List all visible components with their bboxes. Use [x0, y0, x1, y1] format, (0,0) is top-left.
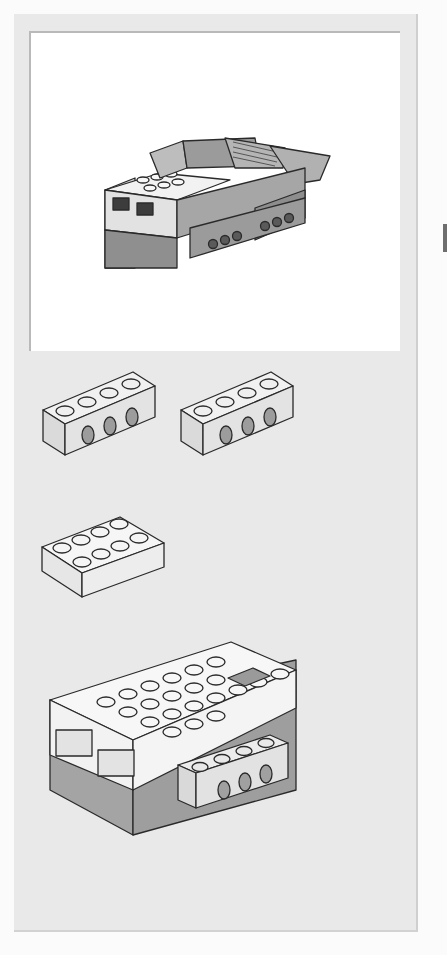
part-brick-2x4	[42, 505, 167, 600]
page-edge-mark	[443, 224, 447, 252]
part-technic-brick-1x4-b	[181, 372, 296, 457]
assembly-hub-with-technic-brick	[48, 640, 298, 835]
completed-model-illustration	[105, 128, 330, 273]
part-technic-brick-1x4-a	[43, 372, 158, 457]
